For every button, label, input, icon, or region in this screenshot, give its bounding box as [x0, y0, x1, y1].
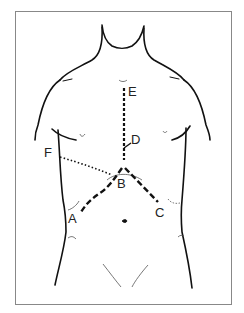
label-f: F — [44, 145, 52, 160]
label-a: A — [68, 211, 77, 226]
label-d: D — [131, 132, 140, 147]
torso-diagram: E D F B A C — [0, 0, 244, 313]
label-b: B — [117, 176, 126, 191]
label-e: E — [128, 84, 137, 99]
navel — [122, 220, 127, 223]
label-c: C — [155, 205, 164, 220]
